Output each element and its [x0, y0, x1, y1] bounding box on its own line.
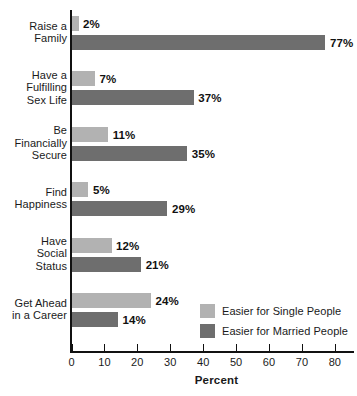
- bar-single-people: [72, 182, 88, 197]
- category-label-line: in a Career: [0, 309, 67, 321]
- category-label: Raise aFamily: [0, 20, 67, 45]
- x-axis-tick: [72, 344, 73, 352]
- legend-swatch-single-icon: [200, 304, 215, 318]
- bar-married-people: [72, 35, 325, 50]
- bar-single-people: [72, 71, 95, 86]
- x-axis-tick-label: 70: [290, 356, 314, 368]
- category-label-line: Raise a: [0, 20, 67, 32]
- category-label-line: Sex Life: [0, 94, 67, 106]
- bar-value-label: 77%: [330, 37, 353, 49]
- legend-item-single: Easier for Single People: [200, 302, 348, 319]
- bar-value-label: 29%: [172, 203, 195, 215]
- x-axis-tick: [104, 344, 105, 352]
- category-label-line: Financially: [0, 137, 67, 149]
- bar-single-people: [72, 238, 112, 253]
- bar-value-label: 24%: [156, 295, 179, 307]
- bar-value-label: 7%: [100, 73, 117, 85]
- bar-married-people: [72, 146, 187, 161]
- bar-value-label: 35%: [192, 148, 215, 160]
- bar-value-label: 2%: [83, 18, 100, 30]
- legend-label-single: Easier for Single People: [222, 305, 341, 317]
- x-axis-tick-label: 60: [257, 356, 281, 368]
- category-label-line: Family: [0, 32, 67, 44]
- x-axis-tick-label: 20: [125, 356, 149, 368]
- category-label: BeFinanciallySecure: [0, 124, 67, 161]
- bar-married-people: [72, 257, 141, 272]
- x-axis-tick-label: 80: [323, 356, 347, 368]
- x-axis-tick-label: 10: [92, 356, 116, 368]
- x-axis-tick: [236, 344, 237, 352]
- x-axis-tick: [203, 344, 204, 352]
- bar-value-label: 37%: [198, 92, 221, 104]
- x-axis-line: [70, 351, 354, 353]
- category-label-line: Have: [0, 235, 67, 247]
- bar-single-people: [72, 127, 108, 142]
- category-label-line: Have a: [0, 69, 67, 81]
- x-axis-tick-label: 50: [224, 356, 248, 368]
- bar-value-label: 12%: [116, 240, 139, 252]
- category-label-line: Be: [0, 124, 67, 136]
- x-axis-tick-label: 0: [60, 356, 84, 368]
- category-label-line: Status: [0, 260, 67, 272]
- x-axis-title: Percent: [0, 374, 357, 386]
- bar-married-people: [72, 90, 194, 105]
- bar-value-label: 11%: [113, 129, 136, 141]
- category-label-line: Find: [0, 186, 67, 198]
- category-label: Have aFulfillingSex Life: [0, 69, 67, 106]
- category-label-line: Get Ahead: [0, 297, 67, 309]
- x-axis-tick: [170, 344, 171, 352]
- legend-item-married: Easier for Married People: [200, 322, 348, 339]
- category-label-line: Happiness: [0, 198, 67, 210]
- legend-swatch-married-icon: [200, 324, 215, 338]
- x-axis-tick: [335, 344, 336, 352]
- x-axis-tick: [137, 344, 138, 352]
- legend-label-married: Easier for Married People: [222, 325, 348, 337]
- bar-married-people: [72, 201, 167, 216]
- x-axis-tick-label: 30: [158, 356, 182, 368]
- category-label: HaveSocialStatus: [0, 235, 67, 272]
- bar-married-people: [72, 312, 118, 327]
- category-label-line: Fulfilling: [0, 81, 67, 93]
- bar-single-people: [72, 16, 79, 31]
- bar-value-label: 5%: [93, 184, 110, 196]
- x-axis-tick: [302, 344, 303, 352]
- bar-value-label: 14%: [123, 314, 146, 326]
- bar-chart: 01020304050607080 Raise aFamily2%77%Have…: [0, 0, 357, 396]
- category-label: Get Aheadin a Career: [0, 297, 67, 322]
- bar-value-label: 21%: [146, 259, 169, 271]
- category-label: FindHappiness: [0, 186, 67, 211]
- legend: Easier for Single People Easier for Marr…: [200, 302, 348, 342]
- x-axis-tick: [269, 344, 270, 352]
- category-label-line: Secure: [0, 149, 67, 161]
- category-label-line: Social: [0, 247, 67, 259]
- x-axis-tick-label: 40: [191, 356, 215, 368]
- bar-single-people: [72, 293, 151, 308]
